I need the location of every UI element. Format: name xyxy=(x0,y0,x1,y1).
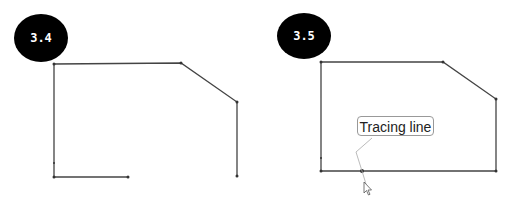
step-badge-label: 3.5 xyxy=(293,29,315,43)
diagram-canvas: 3.4 3.5 xyxy=(0,0,513,204)
tracing-line-tooltip: Tracing line xyxy=(357,116,434,136)
sketch-polyline xyxy=(54,63,237,177)
panel-3-5: 3.5 xyxy=(277,13,498,195)
panel-3-4: 3.4 xyxy=(14,14,239,179)
tracing-leader xyxy=(356,138,372,184)
vertex-points xyxy=(53,62,239,179)
cursor-arrow-icon xyxy=(364,182,372,195)
step-badge-label: 3.4 xyxy=(30,31,52,45)
